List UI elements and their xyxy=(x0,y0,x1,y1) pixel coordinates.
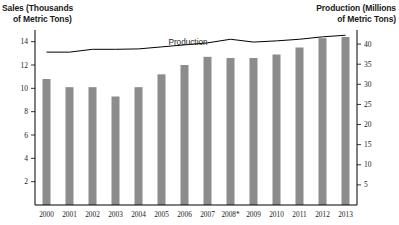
left-axis-ticks: 2468101214 xyxy=(21,37,36,186)
right-tick-label-20: 20 xyxy=(364,120,372,129)
left-tick-label-14: 14 xyxy=(21,37,29,46)
bar-2008 xyxy=(227,58,235,205)
left-tick-label-4: 4 xyxy=(24,154,28,163)
x-label-2008: 2008* xyxy=(221,210,240,219)
x-axis-labels: 200020012002200320042005200620072008*200… xyxy=(39,210,353,219)
x-label-2009: 2009 xyxy=(246,210,261,219)
x-label-2001: 2001 xyxy=(62,210,77,219)
bar-2013 xyxy=(342,37,350,205)
bar-2005 xyxy=(158,74,166,205)
x-label-2011: 2011 xyxy=(292,210,307,219)
bar-2011 xyxy=(296,48,304,206)
bar-2007 xyxy=(204,57,212,205)
x-label-2006: 2006 xyxy=(177,210,192,219)
right-tick-label-25: 25 xyxy=(364,100,372,109)
right-tick-label-30: 30 xyxy=(364,80,372,89)
right-tick-label-10: 10 xyxy=(364,160,372,169)
bar-2012 xyxy=(319,38,327,205)
x-label-2000: 2000 xyxy=(39,210,54,219)
bar-series xyxy=(43,37,350,205)
chart-container: Sales (Thousands of Metric Tons) Product… xyxy=(0,0,399,225)
left-tick-label-10: 10 xyxy=(21,84,29,93)
production-series-label: Production xyxy=(168,38,208,47)
right-tick-label-35: 35 xyxy=(364,60,372,69)
x-label-2007: 2007 xyxy=(200,210,215,219)
bar-2001 xyxy=(66,87,74,205)
x-label-2002: 2002 xyxy=(85,210,100,219)
left-tick-label-8: 8 xyxy=(24,107,28,116)
bar-2009 xyxy=(250,58,258,205)
left-tick-label-12: 12 xyxy=(21,61,29,70)
x-label-2003: 2003 xyxy=(108,210,123,219)
right-tick-label-40: 40 xyxy=(364,40,372,49)
right-tick-label-5: 5 xyxy=(364,180,368,189)
bar-2000 xyxy=(43,79,51,205)
left-tick-label-2: 2 xyxy=(24,177,28,186)
bar-2003 xyxy=(112,97,120,206)
chart-axes xyxy=(35,30,357,205)
right-axis-ticks: 510152025303540 xyxy=(357,40,372,190)
bar-2004 xyxy=(135,87,143,205)
x-label-2005: 2005 xyxy=(154,210,169,219)
bar-2006 xyxy=(181,65,189,205)
x-label-2012: 2012 xyxy=(315,210,330,219)
x-label-2004: 2004 xyxy=(131,210,146,219)
left-tick-label-6: 6 xyxy=(24,131,28,140)
right-tick-label-15: 15 xyxy=(364,140,372,149)
x-label-2013: 2013 xyxy=(338,210,353,219)
series-annotation: Production xyxy=(168,38,208,47)
bar-2010 xyxy=(273,55,281,206)
bar-2002 xyxy=(89,87,97,205)
chart-plot-area: 2468101214 510152025303540 2000200120022… xyxy=(0,0,399,225)
x-label-2010: 2010 xyxy=(269,210,284,219)
